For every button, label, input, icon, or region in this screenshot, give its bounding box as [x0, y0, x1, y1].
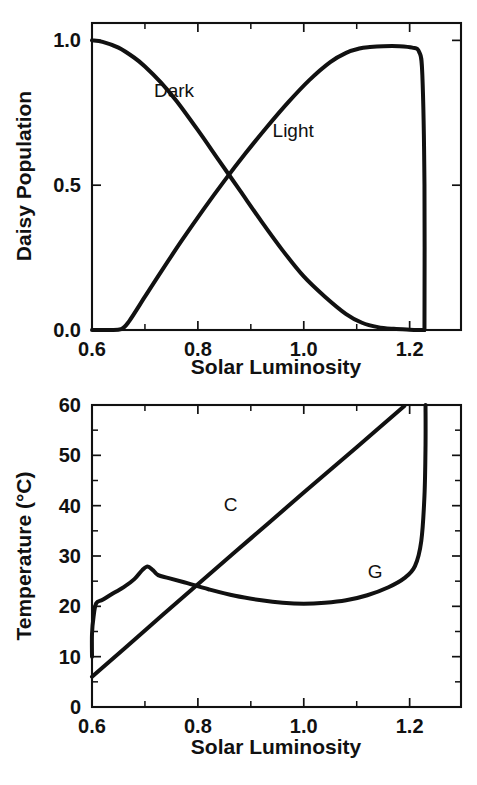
series-label-c: C	[224, 494, 238, 515]
y-tick-label: 30	[59, 545, 81, 567]
x-tick-label: 1.2	[396, 715, 424, 737]
x-tick-label: 0.8	[184, 715, 212, 737]
y-tick-label: 0.5	[53, 174, 81, 196]
temperature-svg: 0.60.81.01.20102030405060 Solar Luminosi…	[0, 388, 477, 785]
series-line-dark	[92, 40, 424, 330]
series-lines-bottom-panel	[92, 405, 426, 677]
daisy-population-svg: 0.60.81.01.20.00.51.0 Solar Luminosity D…	[0, 0, 477, 390]
plot-frame-bottom	[92, 405, 461, 707]
y-tick-label: 1.0	[53, 29, 81, 51]
daisyworld-figure: 0.60.81.01.20.00.51.0 Solar Luminosity D…	[0, 0, 477, 785]
series-lines-top-panel	[92, 40, 425, 330]
series-label-g: G	[368, 561, 383, 582]
chart-temperature: 0.60.81.01.20102030405060 Solar Luminosi…	[0, 388, 477, 785]
y-tick-label: 0.0	[53, 319, 81, 341]
x-tick-label: 1.0	[290, 715, 318, 737]
y-axis-title-top: Daisy Population	[12, 91, 35, 261]
y-tick-label: 0	[70, 696, 81, 718]
x-tick-label: 1.2	[396, 338, 424, 360]
x-axis-title-bottom: Solar Luminosity	[191, 735, 362, 758]
y-tick-label: 50	[59, 444, 81, 466]
series-label-light: Light	[273, 120, 315, 141]
x-axis-title-top: Solar Luminosity	[191, 355, 362, 378]
tick-labels-top-panel: 0.60.81.01.20.00.51.0	[53, 29, 423, 360]
y-tick-label: 60	[59, 394, 81, 416]
series-line-c	[92, 406, 404, 677]
y-axis-title-bottom: Temperature (°C)	[12, 471, 35, 640]
y-tick-label: 10	[59, 646, 81, 668]
axis-ticks-bottom-panel	[92, 405, 461, 707]
chart-daisy-population: 0.60.81.01.20.00.51.0 Solar Luminosity D…	[0, 0, 477, 390]
series-label-dark: Dark	[154, 80, 195, 101]
y-tick-label: 20	[59, 595, 81, 617]
y-tick-label: 40	[59, 495, 81, 517]
x-tick-label: 0.6	[78, 338, 106, 360]
x-tick-label: 0.6	[78, 715, 106, 737]
series-line-light	[92, 46, 425, 330]
